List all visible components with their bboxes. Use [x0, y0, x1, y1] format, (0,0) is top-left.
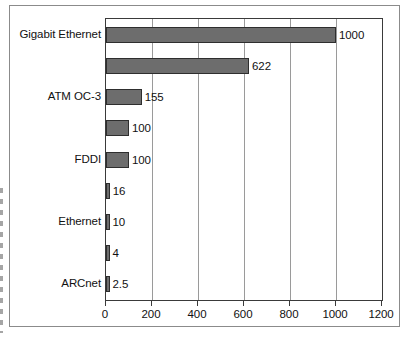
bar: [106, 89, 142, 105]
bar-value-label: 155: [145, 91, 164, 103]
tick-mark-1200: [381, 301, 382, 306]
bar-value-label: 16: [113, 185, 126, 197]
tick-mark-200: [151, 301, 152, 306]
bar-value-label: 100: [132, 122, 151, 134]
bar-chart: Gigabit EthernetATM OC-3FDDIEthernetARCn…: [0, 0, 409, 337]
bar-value-label: 622: [252, 60, 271, 72]
tick-label-800: 800: [280, 308, 299, 320]
bar: [106, 183, 110, 199]
tick-mark-1000: [335, 301, 336, 306]
bar: [106, 27, 336, 43]
tick-mark-0: [105, 301, 106, 306]
tick-mark-600: [243, 301, 244, 306]
category-label: FDDI: [75, 153, 101, 165]
category-axis-labels: Gigabit EthernetATM OC-3FDDIEthernetARCn…: [0, 0, 101, 337]
gridline-800: [290, 19, 291, 300]
gridline-1000: [336, 19, 337, 300]
tick-label-200: 200: [142, 308, 161, 320]
tick-label-1000: 1000: [322, 308, 347, 320]
bar: [106, 276, 110, 292]
bar-value-label: 10: [113, 216, 126, 228]
bar-value-label: 100: [132, 154, 151, 166]
category-label: Gigabit Ethernet: [19, 28, 101, 40]
bar: [106, 120, 129, 136]
tick-label-1200: 1200: [368, 308, 393, 320]
bar: [106, 245, 110, 261]
tick-mark-800: [289, 301, 290, 306]
tick-label-400: 400: [188, 308, 207, 320]
bar-value-label: 4: [113, 247, 119, 259]
plot-area: 1000622155100100161042.5: [105, 18, 383, 301]
category-label: ARCnet: [61, 277, 101, 289]
category-label: ATM OC-3: [48, 90, 101, 102]
bar-value-label: 2.5: [113, 278, 129, 290]
tick-label-600: 600: [234, 308, 253, 320]
bar-value-label: 1000: [339, 29, 364, 41]
tick-label-0: 0: [102, 308, 108, 320]
category-label: Ethernet: [58, 215, 101, 227]
value-axis: 020040060080010001200: [105, 301, 383, 331]
bar: [106, 152, 129, 168]
bar: [106, 214, 110, 230]
tick-mark-400: [197, 301, 198, 306]
bar: [106, 58, 249, 74]
